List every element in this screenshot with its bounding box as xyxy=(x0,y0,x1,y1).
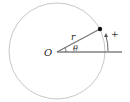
radius-line xyxy=(57,29,100,52)
origin-label: O xyxy=(44,47,52,58)
radius-label: r xyxy=(71,32,76,42)
angle-arc xyxy=(65,48,66,53)
angle-label: θ xyxy=(73,44,78,53)
unit-circle-diagram: O r θ + xyxy=(0,0,130,102)
arrowhead-icon xyxy=(104,33,108,37)
direction-label: + xyxy=(111,29,119,39)
circle xyxy=(9,3,105,99)
direction-arrow-arc xyxy=(106,36,108,51)
point-on-circle xyxy=(98,27,102,31)
